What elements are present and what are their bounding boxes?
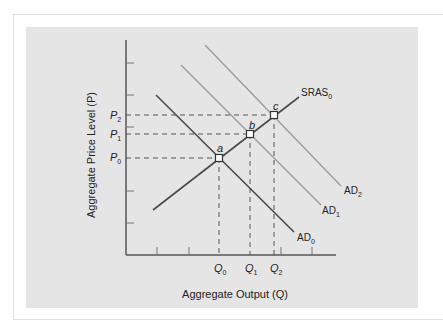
point-label-b: b bbox=[249, 119, 255, 131]
output-label-q0: Q0 bbox=[214, 262, 227, 276]
price-label-p0: P0 bbox=[110, 151, 121, 165]
equilibrium-point-c bbox=[271, 112, 278, 119]
ad1-label: AD1 bbox=[322, 205, 340, 218]
sras0-label: SRAS0 bbox=[301, 87, 332, 100]
y-axis-title: Aggregate Price Level (P) bbox=[85, 92, 97, 218]
ad2-label: AD2 bbox=[344, 185, 362, 198]
equilibrium-point-a bbox=[216, 155, 223, 162]
point-label-c: c bbox=[273, 100, 279, 112]
price-label-p2: P2 bbox=[110, 109, 121, 123]
ad0-label: AD0 bbox=[297, 232, 315, 245]
output-label-q2: Q2 bbox=[270, 262, 283, 276]
x-axis-title: Aggregate Output (Q) bbox=[182, 288, 288, 300]
point-label-a: a bbox=[217, 142, 223, 154]
output-label-q1: Q1 bbox=[245, 262, 258, 276]
price-label-p1: P1 bbox=[110, 128, 121, 142]
y-ticks bbox=[126, 63, 134, 223]
x-ticks bbox=[157, 247, 312, 255]
equilibrium-point-b bbox=[247, 131, 254, 138]
